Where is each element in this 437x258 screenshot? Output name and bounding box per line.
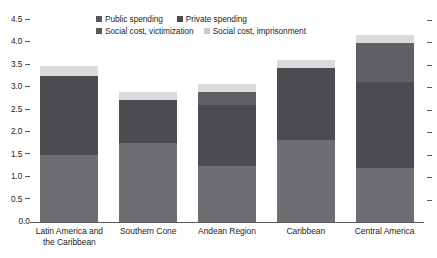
y-tick-1.0: 1.0 bbox=[11, 172, 30, 181]
bar-segment[interactable] bbox=[356, 35, 414, 43]
bar-stack[interactable] bbox=[40, 66, 98, 222]
y-tick-2.5: 2.5 bbox=[11, 105, 30, 114]
x-axis-labels: Latin America andthe CaribbeanSouthern C… bbox=[30, 226, 424, 256]
y-tick-0.5: 0.5 bbox=[11, 195, 30, 204]
bar-segment[interactable] bbox=[277, 68, 335, 140]
right-tick-mark bbox=[427, 65, 432, 66]
bar-segment[interactable] bbox=[119, 143, 177, 222]
y-tick-label: 0.0 bbox=[18, 217, 30, 226]
right-tick-mark bbox=[427, 110, 432, 111]
y-tick-label: 4.0 bbox=[11, 37, 23, 46]
bar-segment[interactable] bbox=[40, 76, 98, 155]
y-axis: 4.54.03.53.02.52.01.51.00.50.0 bbox=[0, 0, 30, 258]
x-axis-label-line: Central America bbox=[337, 226, 433, 237]
bar-segment[interactable] bbox=[277, 140, 335, 222]
y-tick-3.0: 3.0 bbox=[11, 82, 30, 91]
bar-segment[interactable] bbox=[119, 92, 177, 100]
bar-segment[interactable] bbox=[356, 43, 414, 82]
x-axis-line bbox=[30, 222, 424, 223]
plot-area bbox=[30, 0, 424, 222]
bar-segment[interactable] bbox=[198, 92, 256, 105]
right-tick-mark bbox=[427, 200, 432, 201]
bar-segment[interactable] bbox=[356, 82, 414, 168]
right-tick-mark bbox=[427, 177, 432, 178]
y-tick-1.5: 1.5 bbox=[11, 150, 30, 159]
bar-segment[interactable] bbox=[198, 84, 256, 92]
y-tick-2.0: 2.0 bbox=[11, 127, 30, 136]
y-tick-3.5: 3.5 bbox=[11, 60, 30, 69]
y-tick-label: 1.5 bbox=[11, 150, 23, 159]
right-tick-mark bbox=[427, 87, 432, 88]
chart-root: Public spending Private spending Social … bbox=[0, 0, 437, 258]
y-tick-0.0: 0.0 bbox=[18, 217, 30, 226]
bar-stack[interactable] bbox=[277, 60, 335, 222]
right-tick-mark bbox=[427, 155, 432, 156]
x-axis-label: Central America bbox=[337, 226, 433, 237]
right-tick-mark bbox=[427, 20, 432, 21]
y-tick-label: 4.5 bbox=[11, 15, 23, 24]
y-tick-label: 2.5 bbox=[11, 105, 23, 114]
x-axis-label-line: the Caribbean bbox=[21, 237, 117, 248]
y-tick-label: 2.0 bbox=[11, 127, 23, 136]
y-tick-label: 3.0 bbox=[11, 82, 23, 91]
bar-stack[interactable] bbox=[198, 84, 256, 222]
bar-segment[interactable] bbox=[40, 155, 98, 222]
right-tick-mark bbox=[427, 42, 432, 43]
bar-stack[interactable] bbox=[119, 92, 177, 222]
y-tick-4.5: 4.5 bbox=[11, 15, 30, 24]
bar-segment[interactable] bbox=[40, 66, 98, 76]
bar-stack[interactable] bbox=[356, 35, 414, 222]
right-tick-mark bbox=[427, 132, 432, 133]
bar-segment[interactable] bbox=[277, 60, 335, 68]
y-tick-4.0: 4.0 bbox=[11, 37, 30, 46]
bar-segment[interactable] bbox=[198, 166, 256, 222]
y-tick-label: 0.5 bbox=[11, 195, 23, 204]
bar-segment[interactable] bbox=[198, 105, 256, 166]
bar-segment[interactable] bbox=[119, 100, 177, 143]
y-tick-label: 3.5 bbox=[11, 60, 23, 69]
y-tick-label: 1.0 bbox=[11, 172, 23, 181]
bar-segment[interactable] bbox=[356, 168, 414, 222]
